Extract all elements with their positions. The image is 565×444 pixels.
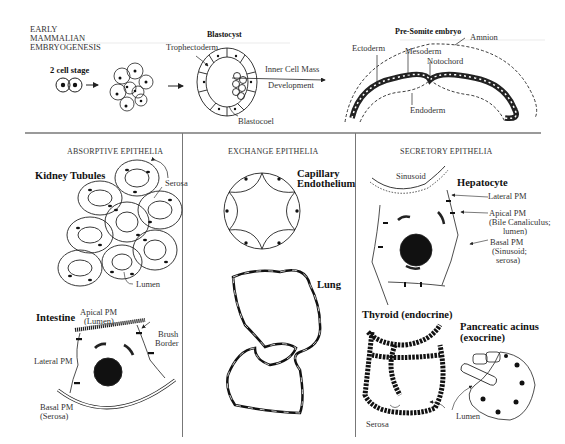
morula-icon xyxy=(110,63,153,111)
secretory-header: SECRETORY EPITHELIA xyxy=(400,147,492,156)
diagram-title-line-3: EMBRYOGENESIS xyxy=(30,43,101,52)
capillary-title-2: Endothelium xyxy=(297,179,355,188)
hepatocyte-apical-sub-2: lumen) xyxy=(503,227,527,236)
presomite-title: Pre-Somite embryo xyxy=(395,27,461,36)
capillary-title-1: Capillary xyxy=(297,169,340,178)
kidney-serosa-label: Serosa xyxy=(165,179,188,188)
intestine-lateral-label: Lateral PM xyxy=(34,357,72,366)
thyroid-title: Thyroid (endocrine) xyxy=(362,310,453,319)
blastocyst-title: Blastocyst xyxy=(207,30,242,39)
blastocoel-label: Blastocoel xyxy=(238,117,274,126)
pancreatic-title-1: Pancreatic acinus xyxy=(460,322,539,331)
lumen-label: Lumen xyxy=(456,412,480,421)
notochord-label: Notochord xyxy=(427,57,463,66)
hepatocyte-basal-sub-2: serosa) xyxy=(496,256,520,265)
two-cell-embryo-icon xyxy=(56,78,82,92)
two-cell-stage-label: 2 cell stage xyxy=(50,66,89,75)
inner-cell-mass-label: Inner Cell Mass xyxy=(265,65,319,74)
hepatocyte-icon xyxy=(370,166,458,305)
kidney-tubules-title: Kidney Tubules xyxy=(35,171,105,180)
kidney-lumen-label: Lumen xyxy=(136,280,160,289)
brush-border-label-2: Border xyxy=(155,339,179,348)
sinusoid-label: Sinusoid xyxy=(396,172,426,181)
intestine-apical-sub-label: (Lumen) xyxy=(84,317,114,326)
development-label: Development xyxy=(268,81,314,90)
trophectoderm-label: Trophectoderm xyxy=(166,43,218,52)
endoderm-label: Endoderm xyxy=(410,106,445,115)
absorptive-header: ABSORPTIVE EPITHELIA xyxy=(67,147,163,156)
ectoderm-label: Ectoderm xyxy=(352,44,385,53)
pancreatic-title-2: (exocrine) xyxy=(460,333,505,342)
lung-title: Lung xyxy=(317,280,341,289)
hepatocyte-lateral-label: Lateral PM xyxy=(488,192,526,201)
exchange-header: EXCHANGE EPITHELIA xyxy=(228,147,318,156)
section-divider xyxy=(25,132,541,134)
intestine-title: Intestine xyxy=(36,313,75,322)
blastocyst-icon xyxy=(197,48,257,116)
pancreatic-acinus-icon xyxy=(460,352,535,420)
lung-alveolus-icon xyxy=(227,270,320,413)
capillary-endothelium-icon xyxy=(224,173,300,249)
thyroid-serosa-label: Serosa xyxy=(366,420,389,429)
intestine-basal-sub-label: (Serosa) xyxy=(40,412,68,421)
mesoderm-label: Mesoderm xyxy=(405,47,441,56)
hepatocyte-title: Hepatocyte xyxy=(457,178,508,187)
amnion-label: Amnion xyxy=(470,33,498,42)
thyroid-follicle-icon xyxy=(365,325,443,413)
